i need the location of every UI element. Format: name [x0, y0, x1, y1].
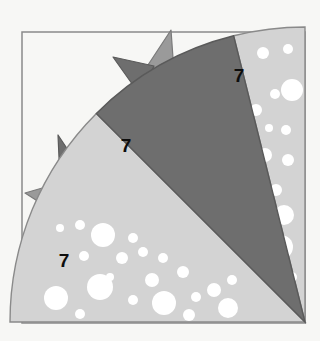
- dot: [265, 124, 273, 132]
- dot: [218, 298, 238, 318]
- wedge-label-top-right: 7: [234, 65, 245, 86]
- sector-diagram: 7 7 7: [0, 0, 320, 341]
- dot: [177, 266, 189, 278]
- dot: [191, 292, 201, 302]
- dot: [282, 154, 294, 166]
- figure-canvas: 7 7 7: [0, 0, 320, 341]
- dot: [116, 252, 128, 264]
- dot: [87, 274, 113, 300]
- dot: [79, 251, 89, 261]
- dot: [128, 233, 138, 243]
- dot: [128, 295, 138, 305]
- dot: [138, 247, 148, 257]
- dot: [227, 275, 237, 285]
- dot: [270, 89, 280, 99]
- dot: [152, 291, 176, 315]
- dot: [75, 220, 85, 230]
- dot: [91, 223, 115, 247]
- dot: [158, 253, 168, 263]
- dot: [56, 224, 64, 232]
- dot: [283, 44, 293, 54]
- dot: [281, 125, 291, 135]
- wedge-label-bottom-left: 7: [59, 250, 70, 271]
- wedge-label-middle: 7: [121, 135, 132, 156]
- dot: [257, 47, 269, 59]
- dot: [183, 309, 195, 321]
- dot: [281, 79, 303, 101]
- dot: [75, 309, 85, 319]
- dot: [145, 273, 159, 287]
- dot: [207, 283, 221, 297]
- dot: [44, 286, 68, 310]
